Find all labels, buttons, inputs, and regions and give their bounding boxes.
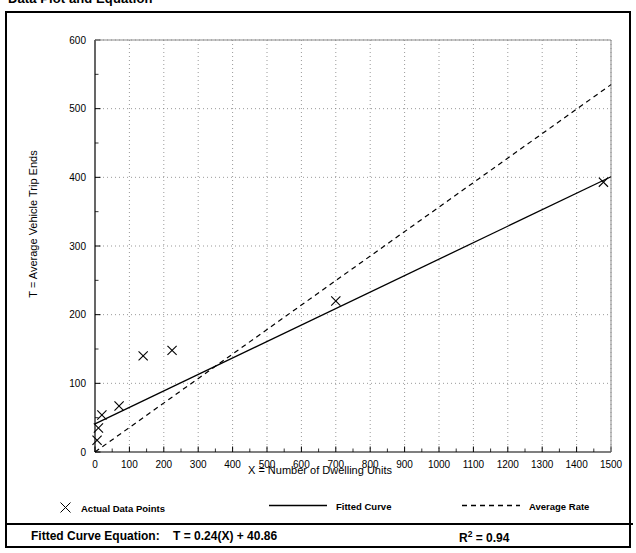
y-tick-label: 200 — [69, 309, 86, 320]
y-tick-label: 500 — [69, 103, 86, 114]
equation-expression: T = 0.24(X) + 40.86 — [173, 529, 277, 543]
fitted-curve-equation: Fitted Curve Equation: T = 0.24(X) + 40.… — [31, 529, 277, 543]
y-tick-label: 300 — [69, 241, 86, 252]
legend-label-fitted-curve: Fitted Curve — [336, 501, 391, 512]
y-tick-label: 0 — [80, 447, 86, 458]
major-ticks-group — [95, 40, 611, 452]
legend-item-average-rate: Average Rate — [462, 501, 589, 512]
data-point-marker — [92, 436, 101, 445]
data-points-group — [92, 178, 608, 445]
gridlines-group — [95, 40, 611, 452]
y-axis-label: T = Average Vehicle Trip Ends — [27, 124, 39, 324]
r-squared-exponent: 2 — [468, 529, 473, 539]
cross-marker-icon — [59, 501, 72, 516]
equation-label: Fitted Curve Equation: — [31, 529, 160, 543]
x-axis-label: X = Number of Dwelling Units — [7, 464, 633, 476]
data-point-marker — [167, 346, 176, 355]
legend-label-actual-data-points: Actual Data Points — [81, 503, 165, 514]
figure-frame: 0100200300400500600700800900100011001200… — [5, 11, 631, 548]
average-rate-line — [95, 85, 611, 452]
plot-area: 0100200300400500600700800900100011001200… — [7, 13, 633, 493]
data-point-marker — [139, 351, 148, 360]
y-tick-label: 400 — [69, 172, 86, 183]
r-squared-number: = 0.94 — [476, 531, 510, 545]
y-tick-label: 600 — [69, 35, 86, 46]
equation-row: Fitted Curve Equation: T = 0.24(X) + 40.… — [7, 524, 633, 548]
legend-item-actual-data-points: Actual Data Points — [59, 501, 165, 516]
figure-container: Data Plot and Equation 01002003004005006… — [0, 0, 636, 553]
r-squared-value: R2 = 0.94 — [459, 529, 509, 545]
figure-title: Data Plot and Equation — [8, 0, 152, 6]
data-point-marker — [114, 401, 123, 410]
solid-line-icon — [269, 501, 327, 512]
chart-svg: 0100200300400500600700800900100011001200… — [7, 13, 633, 493]
tick-labels-group: 0100200300400500600700800900100011001200… — [69, 35, 622, 470]
legend-item-fitted-curve: Fitted Curve — [269, 501, 391, 512]
dashed-line-icon — [462, 501, 520, 512]
fitted-curve-line — [95, 177, 611, 424]
y-tick-label: 100 — [69, 378, 86, 389]
minor-ticks-group — [95, 74, 594, 452]
chart-legend: Actual Data Points Fitted Curve Average … — [7, 497, 633, 523]
r-squared-symbol: R — [459, 531, 468, 545]
data-point-marker — [97, 410, 106, 419]
axis-lines-group — [95, 40, 611, 452]
legend-label-average-rate: Average Rate — [529, 501, 589, 512]
